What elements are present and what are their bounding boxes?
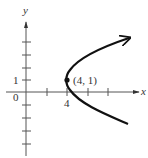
vertex-label: (4, 1) — [73, 74, 97, 87]
parabola-plot: y x 0 1 4 (4, 1) — [0, 0, 148, 158]
x-axis-label: x — [140, 85, 146, 97]
vertex-dot — [64, 77, 69, 82]
origin-label: 0 — [13, 91, 19, 103]
y-axis-label: y — [22, 4, 28, 16]
y-tick-label-1: 1 — [13, 74, 19, 86]
x-tick-label-4: 4 — [64, 97, 70, 109]
y-axis — [22, 22, 31, 156]
